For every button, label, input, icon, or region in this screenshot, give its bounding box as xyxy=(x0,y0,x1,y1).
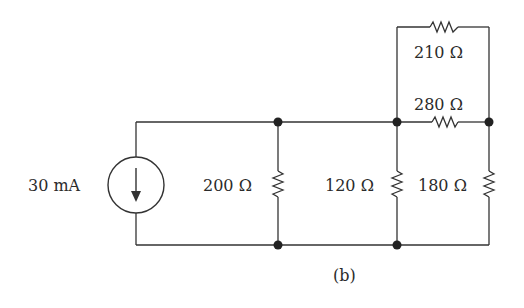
resistor-280-label: 280 Ω xyxy=(414,95,463,114)
figure-label: (b) xyxy=(333,266,356,285)
resistor-120-symbol xyxy=(392,171,402,197)
resistor-210-label: 210 Ω xyxy=(414,43,463,62)
resistor-210-symbol xyxy=(430,22,458,32)
circuit-diagram: 30 mA 200 Ω 120 Ω 180 Ω 280 Ω 210 Ω (b) xyxy=(0,0,524,308)
source-label: 30 mA xyxy=(28,176,81,195)
resistor-120-label: 120 Ω xyxy=(325,176,374,195)
current-source xyxy=(108,157,164,213)
resistor-200-label: 200 Ω xyxy=(203,176,252,195)
resistor-180-symbol xyxy=(484,171,494,197)
resistor-200-symbol xyxy=(273,171,283,197)
resistor-180-label: 180 Ω xyxy=(418,176,467,195)
resistor-280-symbol xyxy=(432,117,458,127)
